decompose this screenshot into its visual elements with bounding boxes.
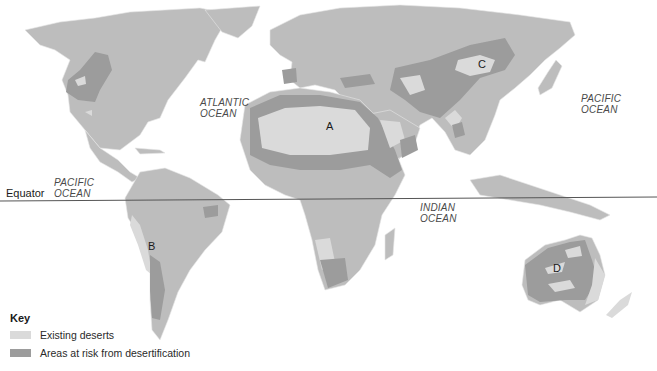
point-label-a: A (326, 120, 333, 132)
north-america (25, 8, 230, 150)
key-item-existing-deserts: Existing deserts (10, 329, 190, 341)
japan (538, 60, 562, 95)
sahara-desert (258, 106, 370, 155)
atlantic-ocean-label: ATLANTIC OCEAN (200, 97, 249, 119)
key-title: Key (10, 312, 190, 324)
at-risk-swatch (10, 349, 31, 357)
new-zealand (606, 292, 632, 318)
madagascar (385, 228, 395, 260)
indian-ocean-label: INDIAN OCEAN (420, 202, 457, 224)
spain-risk (282, 68, 297, 84)
pacific-ocean-label-east: PACIFIC OCEAN (581, 93, 621, 115)
point-label-d: D (553, 262, 561, 274)
point-label-b: B (148, 240, 155, 252)
point-label-c: C (478, 58, 486, 70)
key-item-at-risk: Areas at risk from desertification (10, 347, 190, 359)
key-item-label: Areas at risk from desertification (40, 347, 190, 359)
key-item-label: Existing deserts (40, 329, 114, 341)
sa-risk-brazil (203, 205, 218, 218)
pacific-ocean-label-west: PACIFIC OCEAN (54, 177, 94, 199)
map-key: Key Existing deserts Areas at risk from … (10, 312, 190, 365)
caribbean (135, 148, 165, 154)
existing-deserts-swatch (10, 331, 31, 339)
equator-label: Equator (6, 187, 45, 199)
